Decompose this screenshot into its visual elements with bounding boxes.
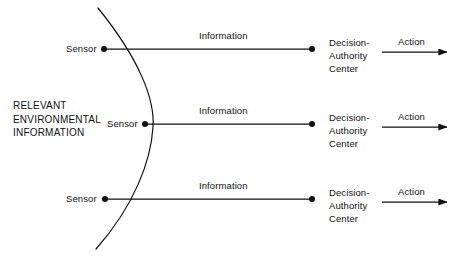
sensor-label: Sensor — [66, 43, 97, 56]
decision-line-2: Authority — [329, 199, 370, 212]
decision-line-3: Center — [329, 62, 370, 75]
decision-line-1: Decision- — [329, 186, 370, 199]
sensor-flow-row-3 — [102, 196, 447, 202]
decision-authority-center-label: Decision- Authority Center — [329, 186, 370, 225]
sensor-node-dot — [142, 121, 148, 127]
relevant-environmental-information-label: RELEVANT ENVIRONMENTAL INFORMATION — [13, 99, 101, 140]
information-label: Information — [199, 180, 248, 193]
env-line-1: RELEVANT — [13, 99, 101, 113]
sensor-node-dot — [102, 196, 108, 202]
sensor-label: Sensor — [107, 118, 138, 131]
action-label: Action — [398, 36, 425, 49]
env-line-3: INFORMATION — [13, 126, 101, 140]
decision-authority-center-label: Decision- Authority Center — [329, 36, 370, 75]
decision-line-3: Center — [329, 137, 370, 150]
decision-line-3: Center — [329, 212, 370, 225]
decision-authority-center-label: Decision- Authority Center — [329, 111, 370, 150]
decision-line-2: Authority — [329, 124, 370, 137]
information-label: Information — [199, 30, 248, 43]
decision-line-2: Authority — [329, 49, 370, 62]
decision-center-node-dot — [309, 46, 315, 52]
decision-line-1: Decision- — [329, 111, 370, 124]
information-label: Information — [199, 105, 248, 118]
diagram-canvas: RELEVANT ENVIRONMENTAL INFORMATION Senso… — [0, 0, 459, 260]
decision-center-node-dot — [309, 121, 315, 127]
env-line-2: ENVIRONMENTAL — [13, 113, 101, 127]
sensor-flow-row-1 — [101, 46, 447, 52]
sensor-label: Sensor — [66, 193, 97, 206]
action-label: Action — [398, 111, 425, 124]
decision-line-1: Decision- — [329, 36, 370, 49]
decision-center-node-dot — [309, 196, 315, 202]
action-label: Action — [398, 186, 425, 199]
sensor-node-dot — [101, 46, 107, 52]
